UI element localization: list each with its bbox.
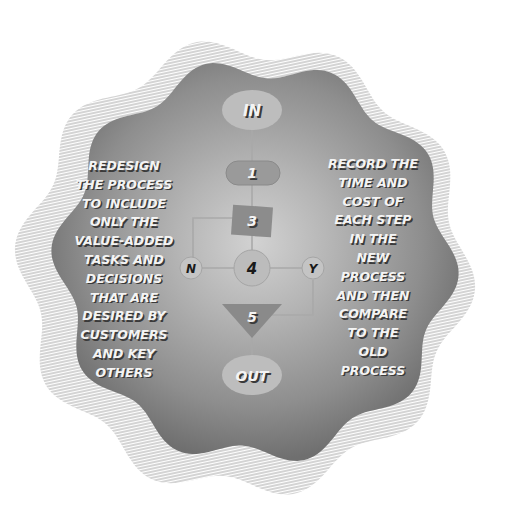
right-text-line: TO THE xyxy=(347,325,398,340)
left-text-line: CUSTOMERS xyxy=(80,327,167,342)
left-text-line: VALUE-ADDED xyxy=(75,233,174,248)
node-5-label: 5 xyxy=(247,309,257,325)
left-text-line: ONLY THE xyxy=(90,214,158,229)
node-4: 4 xyxy=(234,250,270,286)
node-y-label: Y xyxy=(309,262,319,276)
right-text-line: COMPARE xyxy=(339,306,408,321)
node-in-label: IN xyxy=(243,102,262,120)
left-text-line: DESIRED BY xyxy=(82,308,167,323)
left-text-line: AND KEY xyxy=(92,346,157,361)
node-out: OUT OUT xyxy=(222,355,282,395)
right-text-line: AND THEN xyxy=(336,288,410,303)
node-1: 1 1 xyxy=(226,161,280,185)
node-1-label: 1 xyxy=(247,165,257,181)
right-text-line: EACH STEP xyxy=(334,212,411,227)
node-y: Y xyxy=(302,257,324,279)
node-3-label: 3 xyxy=(247,213,257,229)
right-text-line: NEW xyxy=(357,250,391,265)
node-n: N xyxy=(180,257,202,279)
left-text-line: REDESIGN xyxy=(88,158,160,173)
node-3: 3 3 xyxy=(231,205,273,238)
node-in: IN IN xyxy=(222,90,282,130)
left-text-line: TASKS AND xyxy=(84,252,164,267)
left-text-line: DECISIONS xyxy=(86,271,162,286)
right-text-line: TIME AND xyxy=(338,175,407,190)
process-diagram: IN IN 1 1 3 3 4 N Y 5 5 OUT OUT REDESIGN… xyxy=(0,0,507,532)
left-text-line: TO INCLUDE xyxy=(82,196,167,211)
right-text-line: RECORD THE xyxy=(328,156,418,171)
left-text-line: THE PROCESS xyxy=(76,177,173,192)
left-text-line: OTHERS xyxy=(96,365,153,380)
node-4-label: 4 xyxy=(246,260,257,278)
right-text-line: PROCESS xyxy=(341,269,406,284)
right-text-line: COST OF xyxy=(343,194,404,209)
right-text-line: OLD xyxy=(359,344,388,359)
right-text-line: IN THE xyxy=(350,231,397,246)
node-n-label: N xyxy=(186,262,196,276)
left-text-line: THAT ARE xyxy=(90,290,159,305)
node-out-label: OUT xyxy=(236,368,270,384)
right-text-line: PROCESS xyxy=(341,363,406,378)
